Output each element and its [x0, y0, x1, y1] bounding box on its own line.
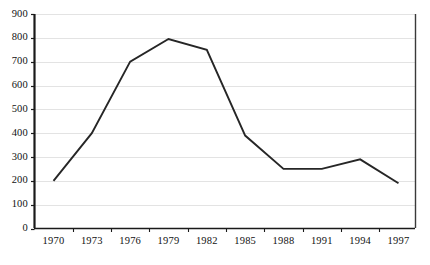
- y-axis-tick-label: 500: [0, 104, 28, 115]
- x-axis-tick-label: 1970: [34, 236, 74, 247]
- x-axis-tick-label: 1994: [340, 236, 380, 247]
- x-axis-tick-label: 1997: [379, 236, 419, 247]
- x-axis-tick-label: 1988: [264, 236, 304, 247]
- x-axis-tick-label: 1973: [72, 236, 112, 247]
- x-axis-tick-label: 1982: [187, 236, 227, 247]
- x-axis-tick-label: 1991: [302, 236, 342, 247]
- y-axis-tick-label: 300: [0, 152, 28, 163]
- x-axis-tick-label: 1985: [225, 236, 265, 247]
- y-axis-tick-label: 700: [0, 56, 28, 67]
- line-chart: 9008007006005004003002001000 19701973197…: [0, 0, 430, 265]
- y-axis-tick-label: 900: [0, 9, 28, 20]
- y-axis-tick-label: 200: [0, 175, 28, 186]
- x-axis-tick-label: 1979: [149, 236, 189, 247]
- x-axis-tick-label: 1976: [110, 236, 150, 247]
- y-axis-tick-label: 0: [0, 223, 28, 234]
- y-axis-tick-label: 600: [0, 80, 28, 91]
- chart-background: [0, 0, 430, 265]
- chart-canvas: [0, 0, 430, 265]
- y-axis-tick-label: 800: [0, 32, 28, 43]
- y-axis-tick-label: 100: [0, 199, 28, 210]
- y-axis-tick-label: 400: [0, 128, 28, 139]
